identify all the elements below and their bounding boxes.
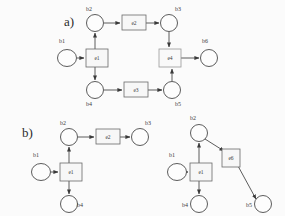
transition-e6[interactable]: e6 (222, 149, 240, 167)
place-circle-b4[interactable] (61, 196, 78, 213)
figure-canvas: e1e2e3e4b1b2b3b4b5b6a)e1e2b1b2b3b4b)e1e6… (0, 0, 285, 216)
place-label-b2: b2 (190, 115, 196, 121)
place-circle-b6[interactable] (201, 50, 218, 67)
transition-e3[interactable]: e3 (124, 82, 148, 97)
place-label-b1: b1 (169, 152, 175, 158)
place-b2[interactable]: b2 (190, 115, 208, 142)
transition-label-e2: e2 (131, 20, 136, 26)
place-circle-b4[interactable] (87, 82, 104, 99)
transition-e1[interactable]: e1 (190, 163, 212, 181)
transition-label-e6: e6 (228, 155, 233, 161)
place-label-b5: b5 (175, 101, 181, 107)
place-label-b2: b2 (60, 120, 66, 126)
place-label-b4: b4 (182, 202, 188, 208)
place-circle-b1[interactable] (58, 50, 77, 67)
transition-label-e1: e1 (68, 169, 73, 175)
place-label-b1: b1 (33, 152, 39, 158)
transition-e1[interactable]: e1 (60, 163, 82, 181)
panel-b-right: e1e6b1b2b4b5 (168, 115, 272, 213)
place-b5[interactable]: b5 (246, 196, 272, 213)
place-label-b3: b3 (145, 120, 151, 126)
place-label-b4: b4 (77, 202, 83, 208)
panel-label-b-left: b) (22, 125, 33, 140)
place-label-b3: b3 (175, 6, 181, 12)
place-circle-b5[interactable] (164, 82, 181, 99)
transition-label-e1: e1 (198, 169, 203, 175)
transition-e1[interactable]: e1 (86, 49, 108, 67)
panel-a: e1e2e3e4b1b2b3b4b5b6a) (58, 6, 218, 107)
transition-e2[interactable]: e2 (122, 15, 146, 30)
place-circle-b1[interactable] (168, 164, 187, 181)
transition-e2[interactable]: e2 (96, 129, 120, 144)
place-circle-b2[interactable] (87, 15, 104, 32)
place-b1[interactable]: b1 (32, 152, 51, 181)
place-b1[interactable]: b1 (168, 152, 187, 181)
transition-label-e2: e2 (105, 134, 110, 140)
place-b1[interactable]: b1 (58, 38, 77, 67)
transition-label-e1: e1 (94, 55, 99, 61)
transition-label-e3: e3 (133, 87, 138, 93)
arc-e6-to-b5 (238, 166, 256, 199)
place-b6[interactable]: b6 (201, 38, 218, 67)
place-circle-b5[interactable] (255, 196, 272, 213)
panel-b-left: e1e2b1b2b3b4b) (22, 120, 151, 213)
place-circle-b2[interactable] (61, 129, 78, 146)
transition-label-e4: e4 (167, 55, 172, 61)
place-b4[interactable]: b4 (86, 82, 104, 108)
place-b2[interactable]: b2 (60, 120, 78, 146)
place-b3[interactable]: b3 (132, 120, 152, 146)
place-circle-b3[interactable] (132, 129, 149, 146)
petri-net-diagram: e1e2e3e4b1b2b3b4b5b6a)e1e2b1b2b3b4b)e1e6… (0, 0, 285, 216)
place-b3[interactable]: b3 (161, 6, 182, 32)
place-b2[interactable]: b2 (86, 6, 104, 32)
place-circle-b2[interactable] (191, 125, 208, 142)
place-circle-b4[interactable] (191, 196, 208, 213)
arc-b2-to-e6 (205, 139, 224, 151)
place-label-b5: b5 (246, 202, 252, 208)
place-b5[interactable]: b5 (164, 82, 182, 108)
place-label-b2: b2 (86, 6, 92, 12)
place-b4[interactable]: b4 (61, 196, 84, 213)
place-circle-b1[interactable] (32, 164, 51, 181)
place-circle-b3[interactable] (161, 15, 178, 32)
panel-label-a: a) (64, 14, 74, 29)
place-label-b6: b6 (202, 38, 208, 44)
place-label-b4: b4 (86, 101, 92, 107)
transition-e4[interactable]: e4 (159, 49, 181, 67)
place-b4[interactable]: b4 (182, 196, 208, 213)
place-label-b1: b1 (59, 38, 65, 44)
